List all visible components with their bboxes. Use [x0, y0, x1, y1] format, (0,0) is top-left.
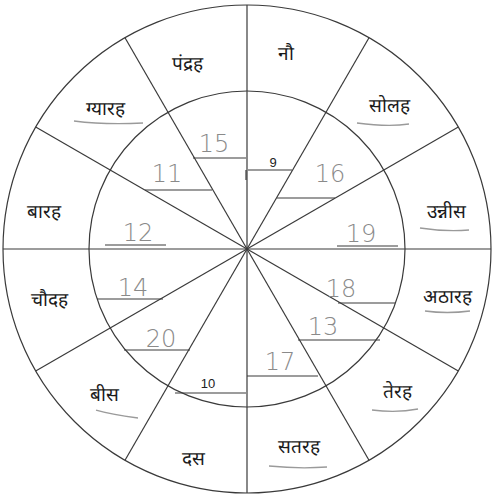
underline-satarah: [269, 466, 327, 468]
underline-unnees: [420, 228, 469, 231]
word-pandrah: पंद्रह: [172, 52, 204, 74]
word-terah: तेरह: [383, 380, 413, 402]
word-bees: बीस: [90, 383, 120, 405]
number-16: 16: [315, 160, 346, 188]
spoke-line: [36, 249, 247, 371]
underline-gyaarah: [74, 121, 143, 124]
number-17: 17: [265, 348, 296, 376]
underline-athaarah: [425, 311, 470, 313]
underline-terah: [372, 409, 418, 411]
outer-ring-words: नौ सोलह उन्नीस अठारह तेरह सतरह दस बीस चौ…: [27, 42, 473, 469]
word-unnees: उन्नीस: [427, 200, 467, 222]
word-chaudah: चौदह: [31, 288, 69, 310]
word-solah: सोलह: [369, 94, 411, 116]
word-satarah: सतरह: [278, 435, 321, 457]
word-athaarah: अठारह: [423, 285, 473, 307]
word-gyaarah: ग्यारह: [86, 97, 126, 119]
number-10: 10: [201, 376, 215, 391]
number-wheel-diagram: नौ सोलह उन्नीस अठारह तेरह सतरह दस बीस चौ…: [0, 0, 495, 501]
word-das: दस: [182, 447, 206, 469]
number-19: 19: [346, 220, 377, 248]
number-12: 12: [123, 219, 154, 247]
radial-spokes: [3, 5, 491, 493]
underline-solah: [357, 123, 409, 125]
underline-bees: [96, 410, 138, 418]
number-15: 15: [199, 130, 230, 158]
number-13: 13: [308, 313, 339, 341]
number-11: 11: [152, 160, 183, 188]
number-20: 20: [146, 325, 177, 353]
number-9: 9: [269, 155, 276, 170]
word-nau: नौ: [278, 42, 295, 64]
spoke-line: [247, 38, 369, 249]
number-18: 18: [326, 275, 357, 303]
wheel-structure: [3, 5, 491, 493]
number-14: 14: [118, 274, 149, 302]
word-baarah: बारह: [27, 200, 62, 222]
